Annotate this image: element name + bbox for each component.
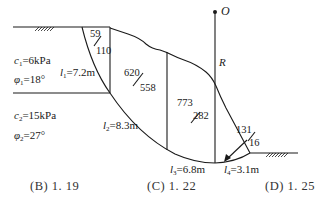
layer1-friction-angle: φ1=18° — [14, 74, 45, 87]
option-d[interactable]: (D) 1. 25 — [265, 179, 315, 194]
layer1-cohesion: c1=6kPa — [14, 55, 51, 68]
length-l4: l4=3.1m — [224, 164, 259, 177]
length-l1: l1=7.2m — [60, 67, 95, 80]
slice1-bottom-value: 110 — [96, 46, 111, 57]
slice3-top-value: 773 — [177, 98, 193, 109]
length-l3: l3=6.8m — [170, 164, 205, 177]
radius-label: R — [219, 57, 226, 68]
diagram-lines — [0, 0, 325, 202]
slope-stability-diagram: O R c1=6kPa φ1=18° c2=15kPa φ2=27° l1=7.… — [0, 0, 325, 202]
slice2-top-value: 620 — [124, 68, 140, 79]
slice1-top-value: 59 — [90, 29, 101, 40]
slice4-top-value: 131 — [236, 125, 252, 136]
slice3-bottom-value: 282 — [193, 111, 209, 122]
length-l2: l2=8.3m — [103, 120, 138, 133]
option-c[interactable]: (C) 1. 22 — [147, 179, 196, 194]
slope-surface — [110, 28, 250, 153]
slice2-bottom-value: 558 — [140, 83, 156, 94]
center-label: O — [221, 5, 230, 17]
layer2-friction-angle: φ2=27° — [14, 130, 45, 143]
layer2-cohesion: c2=15kPa — [14, 110, 56, 123]
center-point-icon — [213, 10, 217, 14]
slice4-bottom-value: 16 — [249, 138, 260, 149]
option-b[interactable]: (B) 1. 19 — [30, 179, 79, 194]
